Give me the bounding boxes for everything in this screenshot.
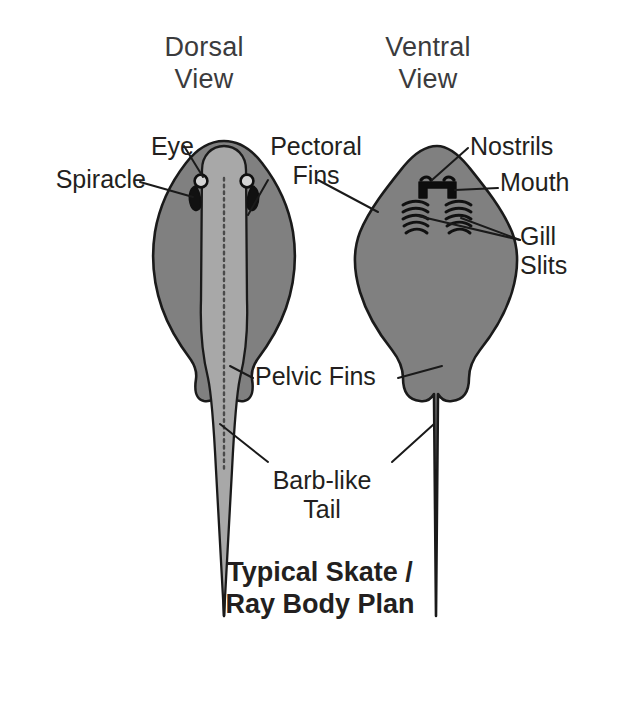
eye-left-icon xyxy=(195,175,208,188)
label-gill-slits: Gill Slits xyxy=(520,222,635,279)
label-pelvic-fins: Pelvic Fins xyxy=(255,362,405,391)
label-pectoral-fins: Pectoral Fins xyxy=(246,132,386,189)
label-mouth: Mouth xyxy=(500,168,635,197)
leader-barb-right xyxy=(392,424,434,462)
label-barb-like-tail: Barb-like Tail xyxy=(252,466,392,523)
label-spiracle: Spiracle xyxy=(16,165,146,194)
figure-title: Typical Skate / Ray Body Plan xyxy=(150,556,490,621)
label-nostrils: Nostrils xyxy=(470,132,630,161)
skate-ray-body-plan-figure: Dorsal View Ventral View xyxy=(0,0,639,704)
label-eye: Eye xyxy=(104,132,194,161)
